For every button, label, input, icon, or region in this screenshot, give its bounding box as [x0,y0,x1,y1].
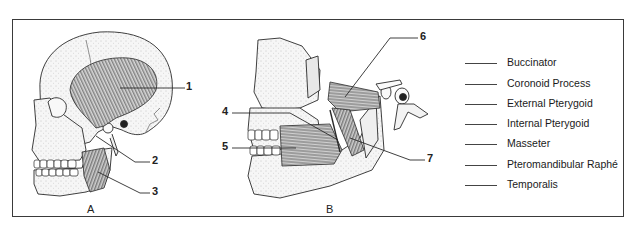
answer-blank[interactable] [465,63,497,64]
legend-label: Pteromandibular Raphé [507,158,618,170]
answer-blank[interactable] [465,124,497,125]
answer-blank[interactable] [465,165,497,166]
panel-label-b: B [326,203,333,215]
callout-5: 5 [222,140,228,152]
legend-label: Temporalis [507,178,558,190]
legend-item-masseter: Masseter [465,129,618,149]
external-pterygoid-muscle [328,82,380,112]
legend-label: Coronoid Process [507,77,590,89]
legend-item-temporalis: Temporalis [465,170,618,190]
answer-blank[interactable] [465,84,497,85]
panel-a-teeth [34,160,78,176]
answer-blank[interactable] [465,185,497,186]
legend-label: External Pterygoid [507,97,593,109]
panel-label-a: A [87,203,94,215]
answer-blank[interactable] [465,104,497,105]
legend-label: Masseter [507,137,550,149]
legend-label: Buccinator [507,56,557,68]
legend-item-external-pterygoid: External Pterygoid [465,89,618,109]
legend-label: Internal Pterygoid [507,117,589,129]
buccinator-muscle [280,124,342,166]
callout-1: 1 [186,80,192,92]
callout-2: 2 [152,154,158,166]
legend-item-internal-pterygoid: Internal Pterygoid [465,109,618,129]
callout-7: 7 [427,152,433,164]
legend-item-pteromandibular-raphe: Pteromandibular Raphé [465,149,618,169]
answer-legend: Buccinator Coronoid Process External Pte… [465,48,618,190]
callout-3: 3 [152,185,158,197]
legend-item-coronoid-process: Coronoid Process [465,68,618,88]
callout-6: 6 [420,30,426,42]
answer-blank[interactable] [465,144,497,145]
callout-4: 4 [222,105,228,117]
legend-item-buccinator: Buccinator [465,48,618,68]
